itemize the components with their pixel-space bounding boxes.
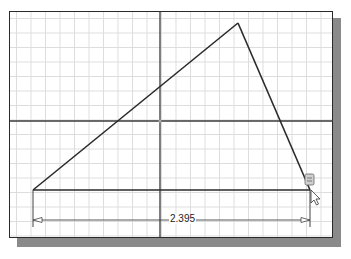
dimension-value[interactable]: 2.395 <box>169 214 196 224</box>
sketch-line-right[interactable] <box>238 23 310 190</box>
cursor-arrow-icon <box>311 190 320 205</box>
dimension-arrow-left <box>33 218 42 223</box>
constraint-glyph-icon[interactable] <box>305 174 314 185</box>
origin-point[interactable] <box>159 120 162 123</box>
sketch-line-left[interactable] <box>33 23 238 190</box>
dimension-arrow-right <box>301 218 310 223</box>
